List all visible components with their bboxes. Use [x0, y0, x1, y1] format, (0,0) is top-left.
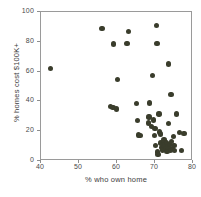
y-tick-label: 20: [16, 126, 34, 133]
data-point: [154, 41, 159, 46]
y-tick-mark: [37, 160, 40, 161]
data-point: [134, 101, 139, 106]
x-tick-label: 40: [30, 163, 50, 170]
y-tick-label: 40: [16, 96, 34, 103]
data-point: [168, 92, 173, 97]
plot-area: [40, 11, 192, 160]
x-tick-label: 70: [144, 163, 164, 170]
y-tick-label: 80: [16, 37, 34, 44]
data-point: [181, 131, 186, 136]
x-axis-title: % who own home: [40, 175, 192, 184]
data-point: [115, 77, 120, 82]
data-point: [48, 66, 53, 71]
data-point: [124, 41, 129, 46]
data-point: [171, 134, 176, 139]
y-tick-label: 100: [16, 7, 34, 14]
data-point: [179, 148, 184, 153]
data-points-layer: [41, 12, 191, 159]
y-tick-mark: [37, 130, 40, 131]
data-point: [135, 118, 140, 123]
x-tick-label: 80: [182, 163, 201, 170]
data-point: [174, 111, 179, 116]
data-point: [166, 61, 171, 66]
x-tick-label: 60: [106, 163, 126, 170]
scatter-plot-figure: % who own home % homes cost $100K+ 40506…: [0, 0, 201, 197]
data-point: [154, 23, 159, 28]
data-point: [152, 133, 157, 138]
data-point: [166, 121, 171, 126]
data-point: [151, 117, 156, 122]
data-point: [147, 100, 152, 105]
y-tick-mark: [37, 100, 40, 101]
data-point: [156, 111, 161, 116]
y-tick-label: 0: [16, 156, 34, 163]
data-point: [150, 73, 155, 78]
data-point: [99, 26, 104, 31]
data-point: [172, 148, 177, 153]
y-axis-title: % homes cost $100K+: [12, 8, 21, 158]
y-tick-mark: [37, 11, 40, 12]
data-point: [111, 41, 116, 46]
y-tick-mark: [37, 71, 40, 72]
data-point: [114, 106, 119, 111]
y-tick-label: 60: [16, 67, 34, 74]
data-point: [158, 131, 163, 136]
data-point: [126, 29, 131, 34]
data-point: [137, 133, 142, 138]
y-tick-mark: [37, 41, 40, 42]
x-tick-label: 50: [68, 163, 88, 170]
